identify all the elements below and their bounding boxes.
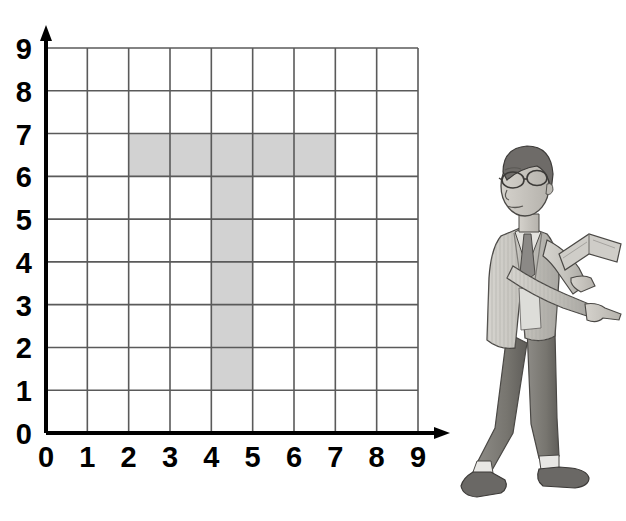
x-axis-tick-label-5: 5	[245, 441, 261, 473]
y-axis-labels: 0123456789	[16, 33, 32, 450]
up-arrow-icon	[40, 25, 52, 41]
right-arrow-icon	[434, 427, 450, 439]
x-axis-tick-label-4: 4	[203, 441, 219, 473]
coordinate-grid-figure: 0123456789 0123456789	[0, 0, 460, 500]
y-axis-tick-label-4: 4	[16, 247, 32, 279]
pointing-hand	[585, 304, 621, 322]
x-axis-tick-label-7: 7	[327, 441, 343, 473]
y-axis-tick-label-9: 9	[16, 33, 32, 65]
open-book	[559, 234, 621, 270]
x-axis-tick-label-8: 8	[369, 441, 385, 473]
y-axis-tick-label-3: 3	[16, 290, 32, 322]
y-axis-tick-label-6: 6	[16, 161, 32, 193]
figure-front-leg	[527, 328, 589, 488]
x-axis-tick-label-9: 9	[410, 441, 426, 473]
figure-back-leg	[461, 333, 527, 497]
y-axis-tick-label-8: 8	[16, 76, 32, 108]
x-axis-tick-label-1: 1	[79, 441, 95, 473]
y-axis-tick-label-1: 1	[16, 375, 32, 407]
x-axis-tick-label-6: 6	[286, 441, 302, 473]
y-axis-tick-label-0: 0	[16, 418, 32, 450]
shoe-front	[538, 467, 589, 488]
worksheet-page: 0123456789 0123456789	[0, 0, 626, 521]
x-axis-tick-label-0: 0	[38, 441, 54, 473]
x-axis-tick-label-3: 3	[162, 441, 178, 473]
figure-head	[499, 146, 553, 232]
coordinate-grid-svg: 0123456789 0123456789	[0, 0, 460, 500]
teacher-illustration	[455, 128, 626, 521]
y-axis-tick-label-5: 5	[16, 204, 32, 236]
teacher-illustration-svg	[455, 128, 626, 521]
x-axis-tick-label-2: 2	[121, 441, 137, 473]
y-axis-tick-label-7: 7	[16, 119, 32, 151]
shoe-back	[461, 472, 506, 497]
y-axis-tick-label-2: 2	[16, 332, 32, 364]
x-axis-labels: 0123456789	[38, 441, 426, 473]
